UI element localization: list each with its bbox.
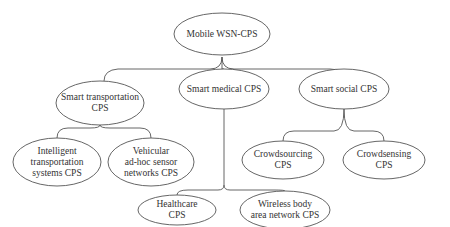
node-label-line: Smart medical CPS (187, 84, 261, 95)
node-label-line: Crowdsensing (357, 149, 411, 160)
node-label-line: CPS (61, 103, 139, 114)
node-root-label: Mobile WSN-CPS (187, 29, 258, 40)
node-crowdsensing-label: CrowdsensingCPS (357, 149, 411, 171)
diagram-canvas: Mobile WSN-CPSSmart transportationCPSSma… (0, 0, 450, 227)
node-label-line: Smart transportation (61, 92, 139, 103)
node-label-line: Intelligent (31, 146, 84, 157)
node-label-line: CPS (357, 160, 411, 171)
node-label-line: transportation (31, 157, 84, 168)
node-label-line: area network CPS (251, 210, 320, 221)
node-label-line: Vehicular (124, 146, 178, 157)
node-wban-label: Wireless bodyarea network CPS (251, 199, 320, 221)
node-healthcare-label: HealthcareCPS (156, 199, 197, 221)
node-vanet-label: Vehicularad-hoc sensornetworks CPS (124, 146, 178, 179)
node-label-line: networks CPS (124, 168, 178, 179)
node-its-label: Intelligenttransportationsystems CPS (31, 146, 84, 179)
node-label-line: Smart social CPS (311, 84, 378, 95)
node-medical-label: Smart medical CPS (187, 84, 261, 95)
node-label-line: CPS (156, 210, 197, 221)
node-transport-label: Smart transportationCPS (61, 92, 139, 114)
node-crowdsourcing-label: CrowdsourcingCPS (254, 149, 313, 171)
node-social-label: Smart social CPS (311, 84, 378, 95)
node-label-line: Crowdsourcing (254, 149, 313, 160)
node-label-line: ad-hoc sensor (124, 157, 178, 168)
node-label-line: Wireless body (251, 199, 320, 210)
node-label-line: CPS (254, 160, 313, 171)
node-label-line: systems CPS (31, 168, 84, 179)
node-label-line: Healthcare (156, 199, 197, 210)
node-label-line: Mobile WSN-CPS (187, 29, 258, 40)
